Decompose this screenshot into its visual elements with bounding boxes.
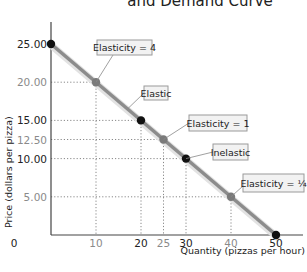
x-tick-label: 20 [134, 237, 147, 249]
callout-label: Elastic [140, 88, 171, 99]
y-tick-label: 12.50 [17, 134, 47, 146]
data-point [47, 40, 55, 48]
callout-label: Elasticity = 1 [186, 118, 249, 129]
x-tick-label: 25 [157, 237, 170, 249]
y-tick-label: 5.00 [24, 191, 47, 203]
callout-label: Inelastic [211, 147, 251, 158]
y-tick-label: 20.00 [17, 76, 47, 88]
callout-label: Elasticity = ¼ [240, 178, 306, 189]
data-point [137, 116, 145, 124]
y-axis-label: Price (dollars per pizza) [3, 116, 14, 228]
chart-canvas: and Demand Curve Elasticity = 4ElasticEl… [0, 0, 307, 272]
chart-title: and Demand Curve [127, 0, 273, 10]
x-axis-label: Quantity (pizzas per hour) [181, 245, 305, 256]
callout-label: Elasticity = 4 [93, 42, 156, 53]
callout-leader [186, 152, 213, 159]
callout-leader [96, 55, 113, 82]
y-tick-labels: 25.0020.0015.0012.5010.005.00 [17, 38, 47, 203]
demand-elasticity-chart: and Demand Curve Elasticity = 4ElasticEl… [0, 0, 307, 272]
x-tick-label: 10 [89, 237, 102, 249]
x-tick-label: 0 [11, 237, 18, 249]
y-tick-label: 10.00 [17, 153, 47, 165]
y-tick-label: 15.00 [17, 114, 47, 126]
y-tick-label: 25.00 [17, 38, 47, 50]
callout-leader [164, 123, 190, 140]
gridlines [51, 82, 231, 235]
